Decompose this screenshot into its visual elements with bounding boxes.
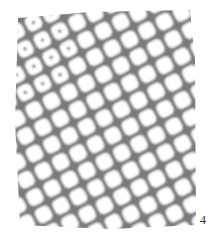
cell-center-dot: [50, 56, 53, 59]
lattice-pattern: [0, 0, 214, 237]
cell-center-dot: [6, 100, 9, 103]
lattice-cell: [208, 203, 214, 224]
lattice-cell: [199, 185, 214, 206]
lattice-figure: 4: [0, 0, 214, 237]
cell-center-dot: [67, 47, 70, 50]
lattice-cell: [58, 0, 79, 15]
cell-center-dot: [0, 82, 1, 85]
lattice-cell: [198, 142, 214, 163]
lattice-cell: [0, 100, 1, 121]
cell-center-dot: [41, 82, 44, 85]
lattice-cell: [0, 30, 9, 51]
lattice-cell: [0, 143, 1, 164]
cell-center-dot: [23, 47, 26, 50]
lattice-cell: [14, 0, 35, 16]
lattice-cell: [207, 159, 214, 180]
lattice-cell: [189, 0, 210, 14]
cell-center-dot: [15, 30, 18, 33]
lattice-cell: [0, 4, 18, 25]
lattice-cell: [0, 161, 10, 182]
lattice-cell: [0, 178, 19, 199]
lattice-cell: [0, 117, 10, 138]
lattice-cell: [32, 0, 53, 7]
cell-center-dot: [49, 12, 52, 15]
cell-center-dot: [59, 73, 62, 76]
lattice-cell: [207, 72, 214, 93]
cell-center-dot: [6, 13, 9, 16]
lattice-cell: [156, 229, 177, 237]
cell-center-dot: [32, 21, 35, 24]
lattice-cell: [0, 56, 1, 77]
cell-center-dot: [32, 65, 35, 68]
lattice-cell: [25, 230, 46, 237]
cell-center-dot: [15, 74, 18, 77]
lattice-cell: [119, 0, 140, 6]
cell-center-dot: [67, 3, 70, 6]
panel-label: 4: [200, 213, 206, 227]
cell-center-dot: [58, 30, 61, 33]
lattice-cell: [0, 47, 18, 68]
lattice-cell: [197, 11, 214, 32]
cell-center-dot: [24, 91, 27, 94]
lattice-cell: [162, 0, 183, 6]
cell-center-dot: [6, 56, 9, 59]
lattice-cell: [198, 54, 214, 75]
cell-center-dot: [41, 38, 44, 41]
lattice-cell: [207, 115, 214, 136]
lattice-cell: [68, 230, 89, 237]
cell-center-dot: [23, 4, 26, 7]
lattice-cell: [75, 0, 96, 6]
lattice-cell: [0, 222, 19, 237]
lattice-cell: [198, 98, 214, 119]
lattice-cell: [206, 28, 214, 49]
lattice-cell: [0, 74, 10, 95]
lattice-cell: [0, 187, 2, 208]
lattice-cell: [112, 230, 133, 237]
lattice-cell: [0, 204, 11, 225]
